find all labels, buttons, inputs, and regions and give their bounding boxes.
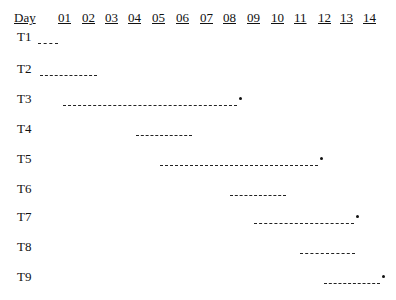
task-bar — [38, 43, 58, 44]
day-tick-10: 10 — [271, 10, 284, 26]
task-bar — [63, 105, 237, 106]
day-tick-05: 05 — [152, 10, 165, 26]
critical-marker-icon — [356, 215, 359, 218]
day-tick-01: 01 — [58, 10, 71, 26]
task-label: T6 — [17, 181, 31, 197]
task-label: T7 — [17, 209, 31, 225]
task-label: T8 — [17, 239, 31, 255]
critical-marker-icon — [382, 275, 385, 278]
day-tick-03: 03 — [105, 10, 118, 26]
task-label: T5 — [17, 151, 31, 167]
day-tick-12: 12 — [318, 10, 331, 26]
task-bar — [230, 195, 286, 196]
task-bar — [254, 223, 354, 224]
task-bar — [300, 253, 355, 254]
day-tick-02: 02 — [82, 10, 95, 26]
task-label: T3 — [17, 91, 31, 107]
task-bar — [160, 165, 318, 166]
task-label: T9 — [17, 269, 31, 285]
day-tick-13: 13 — [340, 10, 353, 26]
task-bar — [136, 135, 192, 136]
day-tick-07: 07 — [200, 10, 213, 26]
task-label: T2 — [17, 61, 31, 77]
day-tick-06: 06 — [176, 10, 189, 26]
task-bar — [324, 283, 380, 284]
critical-marker-icon — [239, 97, 242, 100]
task-label: T1 — [17, 29, 31, 45]
day-tick-09: 09 — [247, 10, 260, 26]
day-axis-label: Day — [14, 10, 36, 26]
task-bar — [40, 75, 97, 76]
day-tick-14: 14 — [363, 10, 376, 26]
day-tick-11: 11 — [294, 10, 307, 26]
day-tick-08: 08 — [223, 10, 236, 26]
critical-marker-icon — [320, 157, 323, 160]
day-tick-04: 04 — [128, 10, 141, 26]
task-label: T4 — [17, 121, 31, 137]
